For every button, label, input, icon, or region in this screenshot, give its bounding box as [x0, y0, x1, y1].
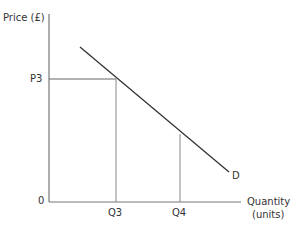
p3-label: P3 — [30, 73, 42, 85]
demand-curve-label: D — [232, 170, 240, 182]
demand-curve — [80, 47, 229, 172]
y-axis-label: Price (£) — [3, 12, 45, 24]
q4-label: Q4 — [172, 207, 186, 219]
q3-label: Q3 — [108, 207, 122, 219]
x-axis-label-line2: (units) — [252, 209, 284, 221]
origin-label: 0 — [38, 195, 44, 207]
x-axis-label-line1: Quantity — [247, 196, 290, 208]
